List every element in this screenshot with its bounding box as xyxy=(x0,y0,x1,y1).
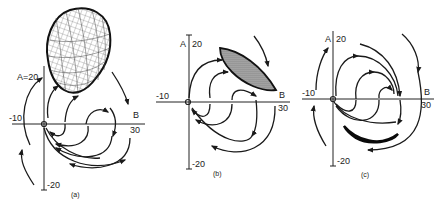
y-min-label: -20 xyxy=(192,159,205,169)
y-min-label: -20 xyxy=(47,180,60,190)
phase-portrait-figure: -10 B 30 A=20 -20 (a) -10 B 30 A 20 -20 … xyxy=(0,0,443,203)
x-axis-label: B xyxy=(424,87,430,97)
panel-a: -10 B 30 A=20 -20 (a) xyxy=(9,8,145,199)
x-max-label: 30 xyxy=(278,103,288,113)
panel-caption: (a) xyxy=(71,191,80,199)
y-min-label: -20 xyxy=(337,156,350,166)
y-axis-label: A xyxy=(180,39,186,49)
attractor-crescent xyxy=(344,126,398,142)
x-max-label: 30 xyxy=(130,125,140,135)
x-min-label: -10 xyxy=(302,88,315,98)
y-max-label: 20 xyxy=(336,34,346,44)
panel-caption: (c) xyxy=(361,171,369,179)
x-axis-label: B xyxy=(279,90,285,100)
x-axis-label: B xyxy=(133,110,139,120)
attractor-lens xyxy=(220,48,276,90)
y-axis-label: A=20 xyxy=(17,72,38,82)
y-axis-label: A xyxy=(325,34,331,44)
x-max-label: 30 xyxy=(421,100,431,110)
x-min-label: -10 xyxy=(9,113,22,123)
panel-b: -10 B 30 A 20 -20 (b) xyxy=(156,35,290,178)
panel-caption: (b) xyxy=(213,170,222,178)
panel-c: -10 B 30 A 20 -20 (c) xyxy=(302,31,434,179)
y-max-label: 20 xyxy=(192,39,202,49)
x-min-label: -10 xyxy=(156,91,169,101)
